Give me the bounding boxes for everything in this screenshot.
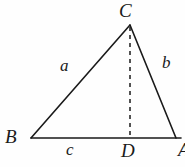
vertex-label-b: B bbox=[5, 127, 17, 146]
vertex-label-c: C bbox=[119, 1, 132, 20]
segment-side-b bbox=[130, 25, 176, 138]
vertex-label-d: D bbox=[121, 141, 135, 160]
triangle-drawing bbox=[0, 0, 185, 167]
vertex-label-a: A bbox=[178, 140, 185, 159]
segment-side-a bbox=[31, 25, 130, 138]
side-label-a: a bbox=[60, 57, 69, 74]
side-label-c: c bbox=[66, 141, 74, 158]
side-label-b: b bbox=[162, 54, 171, 71]
geometry-figure: C B A D a b c bbox=[0, 0, 185, 167]
